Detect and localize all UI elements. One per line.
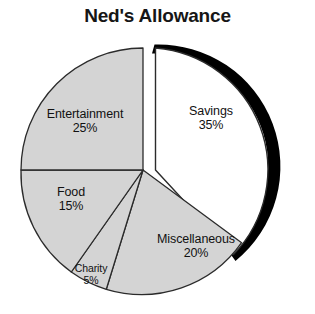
slice-label-charity-name: Charity xyxy=(75,262,108,274)
slice-label-charity: Charity 5% xyxy=(62,262,120,286)
slice-label-entertainment-name: Entertainment xyxy=(47,107,124,121)
slice-label-savings-value: 35% xyxy=(168,118,254,132)
slice-label-food: Food 15% xyxy=(43,185,99,213)
pie-chart: Ned's Allowance Savings 35% Miscellaneou… xyxy=(0,0,315,314)
slice-label-entertainment: Entertainment 25% xyxy=(30,107,140,135)
slice-label-food-name: Food xyxy=(57,185,85,199)
slice-label-savings-name: Savings xyxy=(189,104,233,118)
slice-label-miscellaneous-name: Miscellaneous xyxy=(157,232,235,246)
slice-label-food-value: 15% xyxy=(43,199,99,213)
slice-label-charity-value: 5% xyxy=(62,274,120,286)
pie-graphic xyxy=(0,0,315,314)
slice-label-miscellaneous: Miscellaneous 20% xyxy=(140,232,252,260)
slice-label-entertainment-value: 25% xyxy=(30,121,140,135)
slice-label-savings: Savings 35% xyxy=(168,104,254,132)
slice-label-miscellaneous-value: 20% xyxy=(140,246,252,260)
